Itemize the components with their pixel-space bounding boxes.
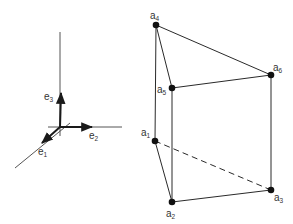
e2-label: e2: [89, 130, 99, 142]
prism-figure: a1a2a3a4a5a6: [141, 10, 284, 220]
diagram-canvas: e1e2e3 a1a2a3a4a5a6: [0, 0, 293, 224]
vertex-a1-label: a1: [141, 127, 151, 139]
e1-label: e1: [38, 146, 48, 158]
edge-a4-a1: [155, 25, 156, 141]
edge-a2-a3: [172, 190, 271, 202]
e3-label: e3: [44, 91, 54, 103]
vertex-a6-label: a6: [273, 62, 283, 74]
edge-a5-a6: [172, 75, 271, 88]
vertex-a3-label: a3: [274, 192, 284, 204]
basis-vectors-figure: e1e2e3: [15, 32, 122, 168]
e3-vector-arrow: [60, 93, 61, 127]
vertex-a4-dot: [153, 22, 160, 29]
vertex-a2-label: a2: [166, 208, 176, 220]
edge-a4-a5: [156, 25, 172, 88]
vertex-a5-label: a5: [157, 84, 167, 96]
e1-vector-arrow: [42, 127, 60, 143]
edge-a4-a6: [156, 25, 271, 75]
vertex-a4-label: a4: [150, 10, 160, 22]
vertex-a1-dot: [152, 138, 159, 145]
edge-a1-a2: [155, 141, 172, 202]
vertex-a5-dot: [169, 85, 176, 92]
vertex-a2-dot: [169, 199, 176, 206]
